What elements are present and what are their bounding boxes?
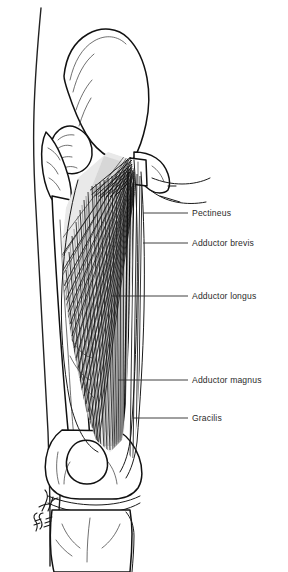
label-gracilis: Gracilis	[192, 414, 222, 423]
artist-signature	[28, 487, 62, 533]
label-adductor-brevis: Adductor brevis	[192, 239, 254, 248]
label-adductor-longus: Adductor longus	[192, 292, 256, 301]
label-pectineus: Pectineus	[192, 209, 231, 218]
label-adductor-magnus: Adductor magnus	[192, 376, 262, 385]
pointer-tick	[160, 196, 180, 202]
anatomy-figure: Pectineus Adductor brevis Adductor longu…	[0, 0, 288, 572]
